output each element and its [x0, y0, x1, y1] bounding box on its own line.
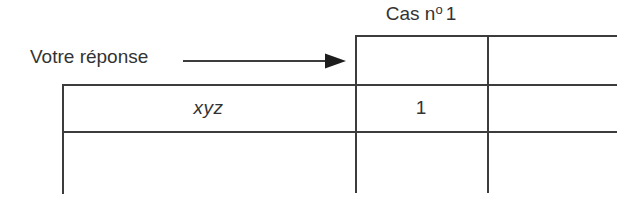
ordinal-indicator: o — [435, 2, 442, 17]
annotation-label-votre-reponse: Votre réponse — [30, 47, 148, 66]
table-rule-top — [355, 35, 617, 37]
table-cell-case-1-value: 1 — [355, 84, 487, 131]
column-header-case-1: Cas no1 — [355, 3, 487, 23]
column-header-prefix: Cas n — [386, 3, 436, 24]
table-cell-row-label: xyz — [62, 84, 355, 131]
right-arrow-icon — [183, 52, 348, 70]
table-rule-row-bottom — [62, 131, 617, 133]
diagram-canvas: Cas no1 Votre réponse xyz 1 — [0, 0, 638, 204]
table-rule-column-2 — [487, 35, 489, 193]
column-header-number: 1 — [446, 3, 457, 24]
table-cell-value-text: 1 — [416, 98, 427, 117]
table-row-label-text: xyz — [194, 98, 224, 117]
